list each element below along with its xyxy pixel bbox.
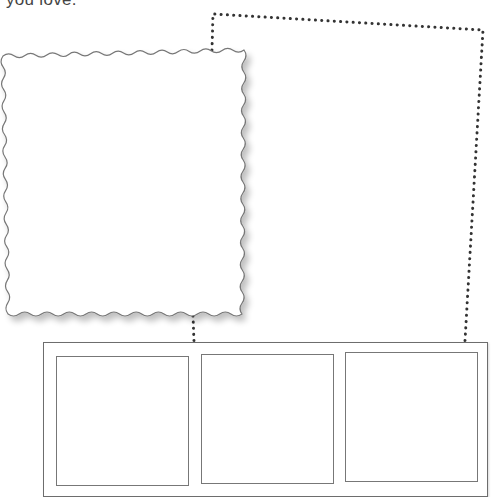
filmstrip-panel-2[interactable] — [201, 354, 334, 484]
filmstrip-frame — [43, 342, 488, 497]
filmstrip-panel-3[interactable] — [345, 352, 478, 482]
filmstrip-panel-1[interactable] — [56, 356, 189, 486]
